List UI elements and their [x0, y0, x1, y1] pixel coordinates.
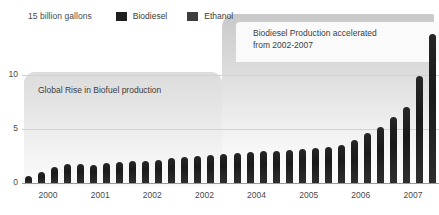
- bar-slot: [400, 32, 413, 183]
- legend-item-ethanol[interactable]: Ethanol: [187, 11, 233, 21]
- bar-series-container: [22, 32, 439, 183]
- bar[interactable]: [90, 165, 97, 183]
- bar-slot: [244, 32, 257, 183]
- annotation-global-rise: Global Rise in Biofuel production: [38, 85, 161, 97]
- x-tick-label: 2007: [403, 190, 422, 200]
- biofuel-production-chart: 10 5 0 Global Rise in Biofuel production…: [0, 0, 439, 215]
- bar[interactable]: [103, 163, 110, 183]
- bar[interactable]: [273, 151, 280, 183]
- plot-area: 10 5 0 Global Rise in Biofuel production…: [0, 0, 439, 215]
- bar[interactable]: [312, 148, 319, 183]
- bar-slot: [22, 32, 35, 183]
- bar-slot: [296, 32, 309, 183]
- bar-slot: [100, 32, 113, 183]
- bar-slot: [113, 32, 126, 183]
- bar[interactable]: [416, 76, 423, 183]
- chart-legend: 15 billion gallons Biodiesel Ethanol: [28, 9, 253, 23]
- bar[interactable]: [38, 172, 45, 183]
- bar-slot: [283, 32, 296, 183]
- bar[interactable]: [247, 152, 254, 183]
- bar-slot: [231, 32, 244, 183]
- x-tick-label: 2002: [195, 190, 214, 200]
- bar-slot: [348, 32, 361, 183]
- bar[interactable]: [390, 117, 397, 183]
- legend-swatch-biodiesel: [116, 12, 127, 21]
- bar[interactable]: [51, 167, 58, 183]
- bar-slot: [217, 32, 230, 183]
- bar[interactable]: [351, 140, 358, 183]
- bar[interactable]: [168, 158, 175, 183]
- bar-slot: [165, 32, 178, 183]
- bar-slot: [61, 32, 74, 183]
- y-tick-10-label: 10: [0, 69, 18, 79]
- x-tick-label: 2001: [91, 190, 110, 200]
- bar[interactable]: [142, 161, 149, 183]
- bar-slot: [139, 32, 152, 183]
- bar[interactable]: [25, 176, 32, 183]
- bar[interactable]: [260, 151, 267, 183]
- bar-slot: [48, 32, 61, 183]
- x-tick-label: 2000: [39, 190, 58, 200]
- bar[interactable]: [220, 154, 227, 183]
- bar[interactable]: [155, 160, 162, 183]
- x-tick-label: 2006: [351, 190, 370, 200]
- axis-baseline-0: [22, 183, 439, 184]
- bar-slot: [191, 32, 204, 183]
- x-tick-label: 2004: [247, 190, 266, 200]
- bar-slot: [87, 32, 100, 183]
- bar-slot: [361, 32, 374, 183]
- bar[interactable]: [116, 162, 123, 183]
- bar[interactable]: [181, 157, 188, 183]
- bar[interactable]: [299, 149, 306, 183]
- bar[interactable]: [207, 155, 214, 183]
- bar[interactable]: [377, 127, 384, 183]
- bar[interactable]: [338, 145, 345, 183]
- bar[interactable]: [64, 164, 71, 183]
- legend-label-ethanol: Ethanol: [204, 11, 233, 21]
- bar[interactable]: [286, 150, 293, 183]
- legend-label-biodiesel: Biodiesel: [133, 11, 168, 21]
- bar-slot: [178, 32, 191, 183]
- bar[interactable]: [129, 161, 136, 183]
- y-axis-unit-label: 15 billion gallons: [28, 11, 92, 21]
- bar-slot: [413, 32, 426, 183]
- bar[interactable]: [194, 156, 201, 183]
- bar[interactable]: [77, 164, 84, 183]
- bar-slot: [335, 32, 348, 183]
- x-tick-label: 2002: [143, 190, 162, 200]
- bar-slot: [204, 32, 217, 183]
- bar-slot: [322, 32, 335, 183]
- bar[interactable]: [403, 107, 410, 184]
- annotation-biodiesel-accelerated: Biodiesel Production accelerated from 20…: [253, 28, 377, 51]
- bar-slot: [74, 32, 87, 183]
- bar[interactable]: [234, 153, 241, 183]
- legend-swatch-ethanol: [187, 12, 198, 21]
- bar-slot: [257, 32, 270, 183]
- bar-slot: [426, 32, 439, 183]
- x-axis-labels: 20002001200220022004200520062007: [22, 190, 439, 204]
- bar[interactable]: [325, 147, 332, 183]
- legend-item-biodiesel[interactable]: Biodiesel: [116, 11, 168, 21]
- bar-slot: [387, 32, 400, 183]
- bar[interactable]: [429, 34, 436, 183]
- y-tick-5-label: 5: [0, 123, 18, 133]
- bar-slot: [309, 32, 322, 183]
- x-tick-label: 2005: [299, 190, 318, 200]
- bar-slot: [152, 32, 165, 183]
- bar-slot: [270, 32, 283, 183]
- bar[interactable]: [364, 133, 371, 183]
- bar-slot: [126, 32, 139, 183]
- y-tick-0-label: 0: [0, 177, 18, 187]
- bar-slot: [374, 32, 387, 183]
- bar-slot: [35, 32, 48, 183]
